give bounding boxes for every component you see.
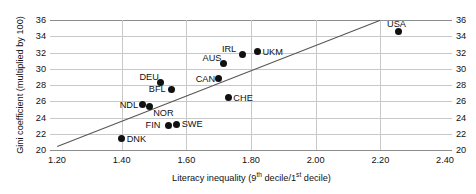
- data-point-fin: [165, 122, 172, 129]
- y-tick-label-left-36: 36: [24, 15, 46, 25]
- y-tick-mark-left-32: [50, 53, 57, 54]
- x-axis-title-middle: decile/1: [262, 173, 296, 183]
- gridline-x-1-6: [186, 20, 187, 150]
- data-point-label-irl: IRL: [222, 44, 236, 54]
- data-point-label-ndl: NDL: [120, 100, 138, 110]
- y-tick-mark-left-28: [50, 85, 57, 86]
- y-tick-mark-left-30: [50, 69, 57, 70]
- y-tick-label-right-22: 22: [456, 129, 476, 139]
- y-tick-label-left-30: 30: [24, 64, 46, 74]
- gridline-x-1-4: [122, 20, 123, 150]
- y-tick-label-left-22: 22: [24, 129, 46, 139]
- x-tick-label-1-4: 1.40: [102, 155, 142, 165]
- y-tick-mark-left-22: [50, 134, 57, 135]
- x-axis-title-prefix: Literacy inequality (9: [172, 173, 256, 183]
- y-tick-mark-right-20: [445, 150, 452, 151]
- y-tick-mark-left-34: [50, 36, 57, 37]
- y-tick-label-right-26: 26: [456, 96, 476, 106]
- data-point-swe: [173, 121, 180, 128]
- x-tick-label-2: 2.00: [296, 155, 336, 165]
- y-tick-label-left-28: 28: [24, 80, 46, 90]
- x-tick-label-1-2: 1.20: [37, 155, 77, 165]
- x-tick-label-2-2: 2.20: [360, 155, 400, 165]
- data-point-label-deu: DEU: [139, 72, 158, 82]
- y-tick-mark-right-30: [445, 69, 452, 70]
- data-point-nor: [146, 103, 153, 110]
- data-point-label-ukm: UKM: [262, 47, 282, 57]
- trend-line: [57, 20, 381, 147]
- data-point-che: [225, 94, 232, 101]
- y-tick-label-left-24: 24: [24, 113, 46, 123]
- x-tick-label-1-8: 1.80: [231, 155, 271, 165]
- data-point-label-usa: USA: [387, 19, 406, 29]
- y-tick-mark-right-34: [445, 36, 452, 37]
- y-tick-mark-right-24: [445, 118, 452, 119]
- y-tick-label-left-20: 20: [24, 145, 46, 155]
- data-point-label-dnk: DNK: [127, 134, 146, 144]
- y-tick-mark-right-28: [445, 85, 452, 86]
- y-tick-label-right-28: 28: [456, 80, 476, 90]
- scatter-chart-figure: Gini coefficient (multiplied by 100) Lit…: [0, 0, 476, 194]
- plot-frame-bottom: [57, 150, 445, 151]
- y-tick-label-left-32: 32: [24, 48, 46, 58]
- y-tick-label-left-26: 26: [24, 96, 46, 106]
- y-tick-label-right-36: 36: [456, 15, 476, 25]
- y-tick-label-right-34: 34: [456, 31, 476, 41]
- y-tick-mark-left-36: [50, 20, 57, 21]
- y-tick-mark-right-36: [445, 20, 452, 21]
- gridline-x-2: [316, 20, 317, 150]
- x-tick-label-2-4: 2.40: [425, 155, 465, 165]
- y-tick-label-right-20: 20: [456, 145, 476, 155]
- data-point-ukm: [254, 48, 261, 55]
- data-point-label-aus: AUS: [203, 53, 222, 63]
- plot-area: USAUKMIRLAUSCANDEUBFLCHENDLNORFINSWEDNK: [57, 20, 445, 150]
- x-axis-title-suffix: decile): [301, 173, 331, 183]
- y-tick-label-right-32: 32: [456, 48, 476, 58]
- data-point-label-fin: FIN: [146, 120, 161, 130]
- data-point-label-bfl: BFL: [149, 84, 166, 94]
- gridline-x-2-2: [380, 20, 381, 150]
- data-point-label-nor: NOR: [153, 108, 173, 118]
- x-tick-label-1-6: 1.60: [166, 155, 206, 165]
- y-tick-mark-right-32: [445, 53, 452, 54]
- y-tick-mark-right-26: [445, 101, 452, 102]
- data-point-label-can: CAN: [196, 74, 215, 84]
- y-tick-label-right-30: 30: [456, 64, 476, 74]
- y-tick-mark-left-26: [50, 101, 57, 102]
- y-tick-mark-left-20: [50, 150, 57, 151]
- y-tick-mark-left-24: [50, 118, 57, 119]
- data-point-label-che: CHE: [233, 93, 252, 103]
- data-point-bfl: [168, 86, 175, 93]
- data-point-irl: [239, 51, 246, 58]
- x-axis-title: Literacy inequality (9th decile/1st deci…: [57, 173, 446, 183]
- y-tick-label-left-34: 34: [24, 31, 46, 41]
- data-point-usa: [395, 28, 402, 35]
- y-tick-label-right-24: 24: [456, 113, 476, 123]
- data-point-label-swe: SWE: [182, 119, 203, 129]
- gridline-x-1-8: [251, 20, 252, 150]
- data-point-dnk: [118, 135, 125, 142]
- y-tick-mark-right-22: [445, 134, 452, 135]
